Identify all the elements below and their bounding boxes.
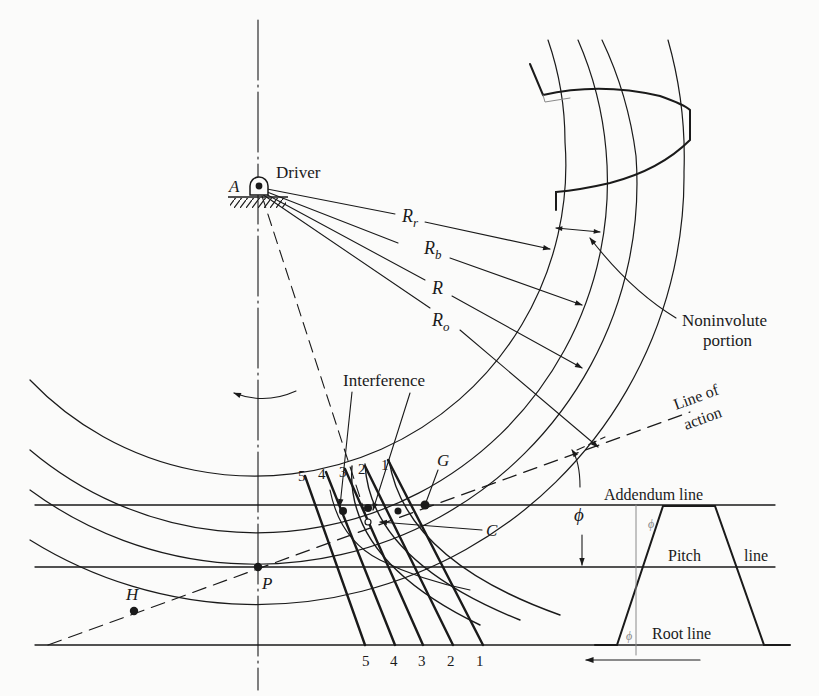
point-p-marker bbox=[254, 563, 262, 571]
rack-number-top-4: 4 bbox=[318, 466, 326, 482]
point-c-marker bbox=[365, 519, 371, 525]
label-r-base: Rb bbox=[423, 238, 442, 262]
label-g: G bbox=[437, 451, 449, 470]
label-portion: portion bbox=[703, 331, 753, 350]
label-c: C bbox=[486, 521, 498, 540]
interference-dot-2 bbox=[364, 504, 372, 512]
label-r-root: Rr bbox=[401, 206, 419, 230]
involute-curve-2 bbox=[365, 464, 520, 620]
label-r-outer: Ro bbox=[431, 310, 450, 334]
rack-line-5 bbox=[305, 476, 365, 645]
outer-circle bbox=[30, 40, 684, 605]
label-h: H bbox=[125, 585, 140, 604]
label-root-line: Root line bbox=[652, 625, 711, 642]
point-h-marker bbox=[130, 607, 138, 615]
label-phi-small-2: ϕ bbox=[626, 629, 632, 643]
radius-r-base bbox=[262, 190, 398, 243]
rack-number-bottom-3: 3 bbox=[418, 653, 426, 669]
rack-number-top-2: 2 bbox=[358, 461, 366, 477]
label-noninvolute: Noninvolute bbox=[682, 311, 767, 330]
radius-r-pitch-2 bbox=[452, 296, 582, 368]
interference-leader-1 bbox=[340, 392, 352, 506]
label-pitch: Pitch bbox=[668, 547, 701, 564]
noninvolute-dimension bbox=[556, 228, 600, 232]
gear-interference-diagram: A Driver Rr Rb R Ro Noninvolute portion … bbox=[0, 0, 819, 696]
label-phi: ϕ bbox=[574, 504, 584, 525]
line-of-action bbox=[48, 412, 690, 645]
rack-number-top-3: 3 bbox=[339, 464, 347, 480]
label-phi-small-1: ϕ bbox=[648, 517, 654, 531]
g-leader bbox=[425, 470, 438, 505]
rack-number-bottom-4: 4 bbox=[390, 653, 398, 669]
rack-number-bottom-5: 5 bbox=[362, 653, 370, 669]
phi-angle-arc-upper bbox=[572, 450, 580, 487]
radius-r-root-2 bbox=[425, 222, 550, 249]
rack-number-top-1: 1 bbox=[381, 457, 389, 473]
rack-number-bottom-1: 1 bbox=[476, 653, 484, 669]
label-r-pitch: R bbox=[431, 278, 443, 298]
involute-curve-1 bbox=[389, 460, 560, 615]
noninvolute-leader bbox=[590, 238, 676, 318]
rack-number-bottom-2: 2 bbox=[447, 653, 455, 669]
label-driver: Driver bbox=[276, 163, 321, 182]
label-a: A bbox=[228, 177, 240, 196]
gear-tooth-outline bbox=[530, 64, 690, 210]
rotation-arrow bbox=[234, 391, 296, 399]
label-p: P bbox=[261, 574, 272, 593]
rack-line-1 bbox=[388, 460, 483, 645]
radius-r-base-2 bbox=[450, 258, 582, 305]
rack-number-top-5: 5 bbox=[298, 468, 306, 484]
label-pitch-line: line bbox=[744, 547, 768, 564]
interference-dot-3 bbox=[395, 508, 402, 515]
point-g-marker bbox=[421, 501, 430, 510]
radius-r-pitch bbox=[262, 192, 425, 280]
label-addendum-line: Addendum line bbox=[604, 486, 703, 503]
base-circle bbox=[30, 40, 607, 533]
tooth-fillet-faint bbox=[543, 95, 570, 102]
root-circle bbox=[30, 40, 566, 476]
interference-dot-1 bbox=[339, 507, 347, 515]
pitch-circle bbox=[30, 40, 637, 564]
label-interference: Interference bbox=[343, 371, 425, 390]
